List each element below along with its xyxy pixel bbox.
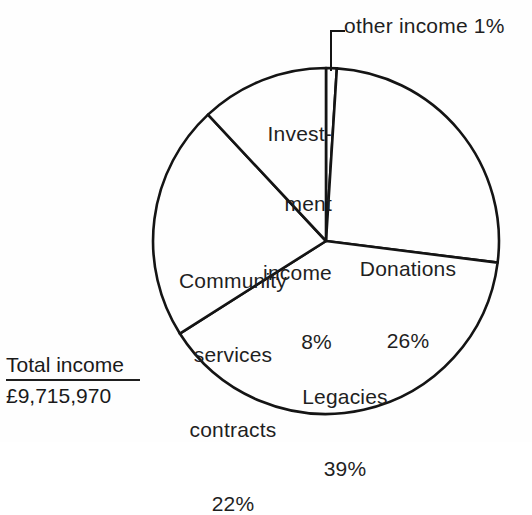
label-community-services-contracts: Community services contracts 22%	[163, 170, 303, 515]
label-investment-income-line1: Invest-	[236, 122, 332, 145]
label-other-income: other income 1%	[344, 14, 505, 38]
label-donations-name: Donations	[345, 257, 471, 281]
total-income-value: £9,715,970	[6, 381, 140, 409]
label-legacies-name: Legacies	[286, 385, 404, 409]
label-legacies-percent: 39%	[286, 457, 404, 481]
other-income-leader-line	[331, 31, 344, 70]
label-community-line3: contracts	[163, 418, 303, 443]
total-income-block: Total income £9,715,970	[6, 352, 140, 410]
label-community-line2: services	[163, 343, 303, 368]
label-community-percent: 22%	[163, 492, 303, 515]
total-income-title: Total income	[6, 352, 140, 381]
label-community-line1: Community	[163, 269, 303, 294]
label-legacies: Legacies 39%	[286, 288, 404, 515]
